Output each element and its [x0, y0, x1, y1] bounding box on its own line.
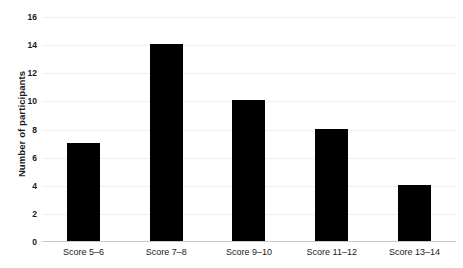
x-axis-tick-label: Score 5–6	[42, 247, 125, 257]
plot-area: 0246810121416	[42, 17, 456, 242]
bar[interactable]	[398, 185, 431, 241]
y-axis-tick-label: 14	[28, 40, 37, 50]
bar[interactable]	[150, 44, 183, 241]
bar[interactable]	[315, 129, 348, 242]
y-axis-tick-label: 16	[28, 12, 37, 22]
y-axis-tick-label: 0	[32, 237, 37, 247]
bar-slot	[208, 16, 291, 241]
y-axis-tick-label: 8	[32, 125, 37, 135]
y-axis-title: Number of participants	[14, 0, 30, 248]
y-axis-tick-label: 6	[32, 153, 37, 163]
x-axis-tick-label: Score 7–8	[125, 247, 208, 257]
bar-slot	[125, 16, 208, 241]
bar-slot	[290, 16, 373, 241]
y-axis-tick-label: 10	[28, 96, 37, 106]
y-axis-tick-label: 12	[28, 68, 37, 78]
bar-chart: Number of participants 0246810121416 Sco…	[0, 0, 463, 268]
bar[interactable]	[232, 100, 265, 241]
y-axis-tick-label: 4	[32, 181, 37, 191]
x-axis-tick-label: Score 9–10	[208, 247, 291, 257]
bar[interactable]	[67, 143, 100, 241]
y-axis-tick-label: 2	[32, 209, 37, 219]
bar-series	[42, 17, 456, 242]
bar-slot	[42, 16, 125, 241]
x-axis-tick-label: Score 11–12	[290, 247, 373, 257]
x-axis-tick-label: Score 13–14	[373, 247, 456, 257]
bar-slot	[373, 16, 456, 241]
